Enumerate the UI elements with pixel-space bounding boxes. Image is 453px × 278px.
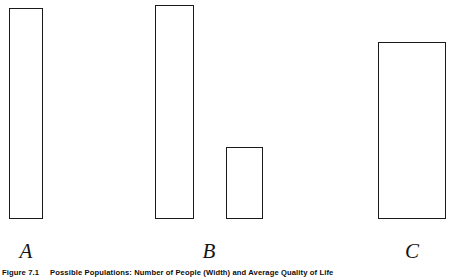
bar-b-tall [155, 5, 194, 219]
bar-a [9, 8, 43, 219]
figure-caption: Figure 7.1Possible Populations: Number o… [2, 268, 453, 278]
figure-caption-label: Figure 7.1 [2, 268, 39, 277]
group-label-b: B [189, 241, 229, 262]
group-label-c: C [392, 241, 432, 262]
bar-b-short [226, 147, 263, 219]
bar-chart-plot-area [0, 0, 453, 232]
bar-c [378, 42, 446, 219]
group-label-a: A [6, 241, 46, 262]
figure-caption-text: Possible Populations: Number of People (… [50, 268, 333, 277]
figure-container: A B C Figure 7.1Possible Populations: Nu… [0, 0, 453, 278]
